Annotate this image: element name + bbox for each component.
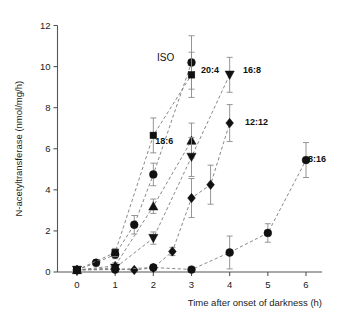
y-tick-label: 0 xyxy=(45,266,50,277)
data-point-marker xyxy=(187,153,196,161)
x-axis-title: Time after onset of darkness (h) xyxy=(188,297,322,308)
data-point-marker xyxy=(149,171,157,179)
y-tick-label: 10 xyxy=(40,61,51,72)
series-label-18-6: 18:6 xyxy=(155,136,173,146)
series-line xyxy=(77,75,192,270)
series-group xyxy=(72,36,310,275)
series-label-8-16: 8:16 xyxy=(308,154,326,164)
series-label-16-8: 16:8 xyxy=(243,65,261,75)
data-point-marker xyxy=(188,72,195,79)
data-point-marker xyxy=(149,234,158,242)
x-tick-label: 2 xyxy=(151,279,156,290)
x-tick-label: 4 xyxy=(227,279,232,290)
y-tick-label: 8 xyxy=(45,102,50,113)
x-tick-label: 6 xyxy=(303,279,308,290)
data-point-marker xyxy=(130,265,138,274)
series-label-12-12: 12:12 xyxy=(245,117,268,127)
data-point-marker xyxy=(188,193,196,202)
x-tick-label: 3 xyxy=(189,279,194,290)
axes-group: 0246810120123456 xyxy=(40,20,322,290)
x-tick-label: 0 xyxy=(74,279,79,290)
data-point-marker xyxy=(73,266,81,274)
y-axis-title: N-acetyltransferase (nmol/mg/h) xyxy=(13,81,24,217)
chart-figure: 0246810120123456 ISO20:418:616:812:128:1… xyxy=(0,0,349,323)
x-tick-label: 1 xyxy=(113,279,118,290)
data-point-marker xyxy=(226,249,234,257)
axis-titles-group: N-acetyltransferase (nmol/mg/h)Time afte… xyxy=(13,81,322,308)
y-tick-label: 4 xyxy=(45,184,50,195)
data-point-marker xyxy=(207,180,215,189)
nat-timecourse-chart: 0246810120123456 ISO20:418:616:812:128:1… xyxy=(0,0,349,323)
series-label-ISO: ISO xyxy=(157,52,174,63)
data-point-marker xyxy=(188,266,196,274)
data-point-marker xyxy=(130,221,138,229)
series-labels-group: ISO20:418:616:812:128:16 xyxy=(155,52,326,165)
data-point-marker xyxy=(264,229,272,237)
data-point-marker xyxy=(226,118,234,127)
data-point-marker xyxy=(169,247,177,256)
y-tick-label: 6 xyxy=(45,143,50,154)
y-tick-label: 2 xyxy=(45,225,50,236)
series-label-20-4: 20:4 xyxy=(201,65,219,75)
data-point-marker xyxy=(149,202,158,210)
data-point-marker xyxy=(225,71,234,79)
data-point-marker xyxy=(112,249,119,256)
series-ISO xyxy=(73,36,195,274)
series-18-6 xyxy=(72,123,196,274)
y-tick-label: 12 xyxy=(40,20,51,31)
series-line xyxy=(77,62,192,269)
x-tick-label: 5 xyxy=(265,279,270,290)
data-point-marker xyxy=(111,266,119,274)
data-point-marker xyxy=(149,264,157,272)
